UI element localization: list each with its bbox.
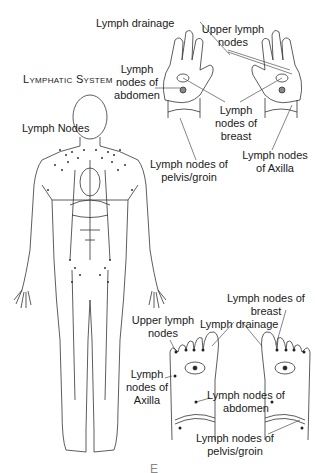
- hands-label-axilla: Lymph nodes of Axilla: [240, 149, 310, 175]
- feet-label-breast: Lymph nodes of breast: [224, 292, 308, 318]
- feet-label-pelvis-groin: Lymph nodes of pelvis/groin: [190, 432, 280, 458]
- feet-label-abdomen: Lymph nodes of abdomen: [206, 389, 286, 415]
- feet-label-lymph-drainage: Lymph drainage: [200, 318, 278, 331]
- hands-label-pelvis-groin: Lymph nodes of pelvis/groin: [150, 158, 228, 184]
- diagram-title: Lymphatic System: [23, 73, 113, 86]
- feet-label-axilla: Lymph nodes of Axilla: [124, 368, 170, 407]
- feet-label-upper-lymph-nodes: Upper lymph nodes: [128, 314, 198, 340]
- hands-label-abdomen: Lymph nodes of abdomen: [114, 63, 160, 102]
- body-label-lymph-nodes: Lymph Nodes: [22, 122, 62, 135]
- hands-label-lymph-drainage: Lymph drainage: [96, 17, 174, 30]
- hands-label-upper-lymph-nodes: Upper lymph nodes: [200, 23, 266, 49]
- footer-partial-text: E: [150, 463, 158, 473]
- hands-label-breast: Lymph nodes of breast: [210, 104, 262, 143]
